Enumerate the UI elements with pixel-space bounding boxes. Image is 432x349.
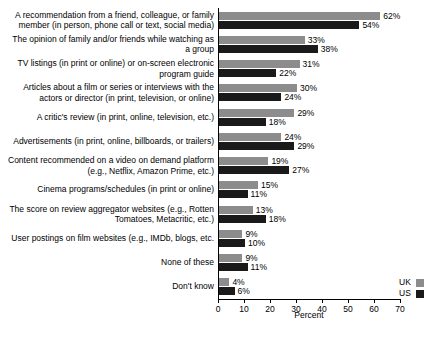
bar-value-label: 31%: [303, 60, 320, 68]
bar-us: [219, 190, 248, 198]
bar-value-label: 18%: [269, 118, 286, 126]
category-label: Don't know: [8, 281, 214, 292]
bar-us: [219, 93, 281, 101]
legend-item-us: US: [399, 288, 424, 299]
bar-uk: [219, 84, 297, 92]
bar-value-label: 9%: [245, 230, 257, 238]
bar-value-label: 11%: [251, 263, 267, 271]
bar-value-label: 6%: [238, 287, 250, 295]
category-label: A recommendation from a friend, colleagu…: [8, 10, 214, 31]
category-label: A critic's review (in print, online, tel…: [8, 112, 214, 123]
category-label: Content recommended on a video on demand…: [8, 155, 214, 176]
bar-value-label: 18%: [269, 215, 286, 223]
bar-value-label: 4%: [232, 278, 244, 286]
bar-us: [219, 166, 289, 174]
legend-item-uk: UK: [399, 277, 424, 288]
plot-area: 01020304050607062%54%33%38%31%22%30%24%2…: [218, 8, 400, 299]
bar-value-label: 13%: [256, 206, 273, 214]
x-axis-tick: [322, 299, 323, 303]
bar-value-label: 62%: [383, 12, 400, 20]
bar-value-label: 9%: [245, 254, 257, 262]
bar-uk: [219, 12, 380, 20]
bar-uk: [219, 278, 229, 286]
bar-us: [219, 21, 359, 29]
bar-value-label: 10%: [248, 239, 265, 247]
category-label: None of these: [8, 257, 214, 268]
bar-us: [219, 142, 294, 150]
x-axis-tick: [218, 299, 219, 303]
legend-swatch-us: [416, 290, 424, 298]
bar-uk: [219, 60, 300, 68]
bar-value-label: 24%: [284, 93, 301, 101]
bar-us: [219, 69, 276, 77]
category-label: Advertisements (in print, online, billbo…: [8, 136, 214, 147]
legend-swatch-uk: [416, 279, 424, 287]
bar-value-label: 22%: [279, 69, 296, 77]
bar-value-label: 30%: [300, 84, 317, 92]
bar-us: [219, 215, 266, 223]
bar-value-label: 33%: [308, 36, 325, 44]
x-axis-tick: [374, 299, 375, 303]
bar-uk: [219, 109, 294, 117]
bar-value-label: 29%: [297, 109, 314, 117]
x-axis-line: [218, 299, 400, 300]
category-label-column: A recommendation from a friend, colleagu…: [4, 8, 214, 299]
bar-chart: A recommendation from a friend, colleagu…: [0, 0, 432, 349]
category-label: The score on review aggregator websites …: [8, 204, 214, 225]
bar-uk: [219, 133, 281, 141]
x-axis-tick: [244, 299, 245, 303]
category-label: TV listings (in print or online) or on-s…: [8, 58, 214, 79]
bar-uk: [219, 157, 268, 165]
bar-value-label: 11%: [251, 190, 267, 198]
x-axis-tick: [296, 299, 297, 303]
bar-value-label: 24%: [284, 133, 301, 141]
chart-legend: UK US: [399, 277, 424, 299]
x-axis-tick: [400, 299, 401, 303]
bar-value-label: 54%: [362, 21, 379, 29]
legend-label-uk: UK: [399, 277, 413, 288]
bar-value-label: 15%: [261, 181, 278, 189]
category-label: Articles about a film or series or inter…: [8, 82, 214, 103]
bar-value-label: 19%: [271, 157, 288, 165]
bar-us: [219, 263, 248, 271]
bar-us: [219, 118, 266, 126]
bar-uk: [219, 230, 242, 238]
bar-uk: [219, 254, 242, 262]
bar-value-label: 38%: [321, 45, 338, 53]
bar-uk: [219, 36, 305, 44]
x-axis-tick: [348, 299, 349, 303]
bar-us: [219, 45, 318, 53]
bar-value-label: 29%: [297, 142, 314, 150]
bar-uk: [219, 181, 258, 189]
bar-us: [219, 239, 245, 247]
bar-us: [219, 287, 235, 295]
x-axis-title: Percent: [218, 310, 400, 320]
legend-label-us: US: [399, 288, 413, 299]
category-label: User postings on film websites (e.g., IM…: [8, 233, 214, 244]
bar-value-label: 27%: [292, 166, 309, 174]
x-axis-tick: [270, 299, 271, 303]
category-label: The opinion of family and/or friends whi…: [8, 34, 214, 55]
bar-uk: [219, 206, 253, 214]
category-label: Cinema programs/schedules (in print or o…: [8, 184, 214, 195]
